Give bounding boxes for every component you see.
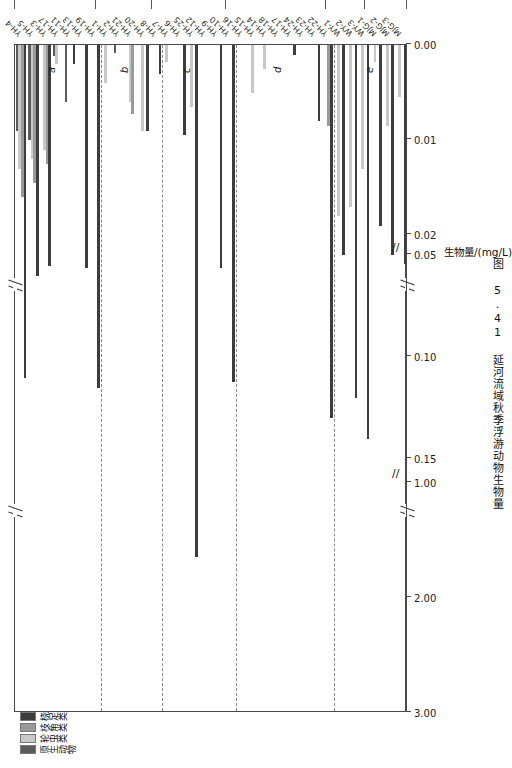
value-axis-tick-label: 0.15 (414, 454, 436, 465)
value-axis-tick-label: 0.00 (414, 40, 436, 51)
bar-segment (361, 45, 364, 169)
axis-break-mark (8, 278, 23, 292)
bar-row (15, 45, 27, 711)
bar-segment (36, 45, 39, 276)
bar-row (27, 45, 39, 711)
bar-row (223, 45, 235, 711)
bar-row (383, 45, 395, 711)
bar-segment (379, 45, 382, 226)
value-axis-tick-label: 0.05 (414, 250, 436, 261)
bar-row (272, 45, 284, 711)
bar-segment (251, 45, 254, 93)
bar-segment (159, 45, 162, 74)
bar-row (187, 45, 199, 711)
region-axis-tick (151, 0, 152, 9)
bar-row (236, 45, 248, 711)
bar-segment (337, 45, 340, 216)
bar-row (64, 45, 76, 711)
bar-segment (220, 45, 223, 268)
bar-row (334, 45, 346, 711)
bar-segment (55, 45, 58, 64)
bar-row (370, 45, 382, 711)
bar-row (101, 45, 113, 711)
figure-caption: 图 5.41 延河流域秋季浮游动物生物量 (489, 258, 505, 510)
value-axis-tick-label: 3.00 (414, 708, 436, 719)
value-axis-tick (406, 481, 411, 482)
bar-segment (24, 45, 27, 378)
bar-row (248, 45, 260, 711)
value-axis-tick-label: 0.02 (414, 230, 436, 241)
bar-row (285, 45, 297, 711)
bar-row (76, 45, 88, 711)
bar-segment (349, 45, 352, 207)
group-separator (162, 45, 163, 711)
bar-segment (65, 45, 68, 102)
bar-segment (131, 45, 134, 114)
bar-row (321, 45, 333, 711)
value-axis-tick-label: 0.01 (414, 135, 436, 146)
bar-segment (263, 45, 266, 69)
bar-row (309, 45, 321, 711)
bar-rows (15, 45, 405, 711)
panel-letter: a (46, 67, 57, 73)
panel-letter: c (181, 68, 192, 74)
bar-segment (165, 45, 168, 62)
bar-segment (318, 45, 321, 121)
panel-letter: e (364, 67, 375, 73)
bar-row (113, 45, 125, 711)
bar-row (52, 45, 64, 711)
region-axis-tick (95, 0, 96, 9)
bar-segment (355, 45, 358, 398)
region-axis-tick (225, 0, 226, 9)
bar-row (174, 45, 186, 711)
region-axis-tick (364, 0, 365, 9)
bar-segment (386, 45, 389, 126)
axis-break-mark (400, 504, 415, 518)
axis-break-mark (400, 278, 415, 292)
panel-letter: b (119, 67, 130, 73)
bar-row (358, 45, 370, 711)
bar-segment (141, 45, 144, 131)
bar-row (125, 45, 137, 711)
legend-swatch (20, 723, 36, 732)
bar-segment (97, 45, 100, 388)
value-axis-tick-label: 2.00 (414, 593, 436, 604)
group-separator (236, 45, 237, 711)
bar-segment (374, 45, 377, 62)
chart-legend: 原生动物轮虫类枝角类桡足类 (20, 718, 160, 754)
bar-segment (330, 45, 333, 418)
value-axis-break-symbol: // (392, 241, 399, 254)
value-axis-tick (406, 43, 411, 44)
bar-row (40, 45, 52, 711)
value-axis-tick-label: 1.00 (414, 478, 436, 489)
bar-segment (293, 45, 296, 55)
region-axis-tick (325, 0, 326, 9)
region-axis-tick (14, 0, 15, 9)
bar-row (150, 45, 162, 711)
value-axis-tick (406, 596, 411, 597)
bar-segment (391, 45, 394, 255)
region-axis-tick (406, 0, 407, 9)
axis-break-mark (8, 504, 23, 518)
panel-letter: d (272, 67, 283, 73)
value-axis-tick (406, 253, 411, 254)
legend-swatch (20, 745, 36, 754)
bar-segment (146, 45, 149, 131)
value-axis-tick (406, 355, 411, 356)
bar-segment (104, 45, 107, 83)
bar-segment (190, 45, 193, 107)
value-axis-tick (406, 233, 411, 234)
bar-segment (398, 45, 401, 97)
bar-row (211, 45, 223, 711)
value-axis-tick-label: 0.10 (414, 352, 436, 363)
bar-row (199, 45, 211, 711)
bar-segment (48, 45, 51, 266)
bar-row (138, 45, 150, 711)
bar-segment (232, 45, 235, 382)
value-axis-break-symbol: // (392, 467, 399, 480)
bar-segment (367, 45, 370, 439)
value-axis-tick (406, 711, 411, 712)
group-separator (334, 45, 335, 711)
bar-row (260, 45, 272, 711)
